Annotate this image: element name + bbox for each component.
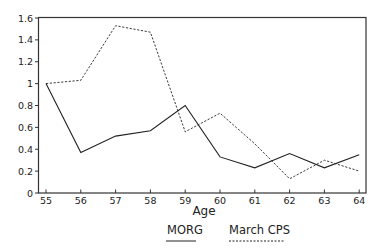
x-tick-label: 60	[214, 195, 226, 206]
legend-label-morg: MORG	[167, 223, 203, 237]
y-axis: 00.20.40.60.811.21.41.6	[18, 13, 39, 199]
y-tick-label: 1	[27, 78, 33, 89]
series-line-morg	[46, 84, 359, 168]
x-tick-label: 55	[40, 195, 52, 206]
series-line-march-cps	[46, 26, 359, 179]
x-tick-label: 56	[75, 195, 87, 206]
x-tick-label: 57	[110, 195, 122, 206]
y-tick-label: 1.6	[18, 13, 33, 24]
y-tick-label: 1.4	[18, 34, 33, 45]
x-tick-label: 59	[179, 195, 191, 206]
legend: MORG March CPS	[166, 223, 290, 241]
line-chart: 00.20.40.60.811.21.41.6 5556575859606162…	[0, 0, 385, 250]
y-tick-label: 0.4	[18, 144, 33, 155]
y-tick-label: 0.2	[18, 166, 33, 177]
x-tick-label: 61	[249, 195, 261, 206]
x-axis-title: Age	[192, 204, 215, 218]
legend-item-morg: MORG	[166, 223, 203, 241]
legend-label-march-cps: March CPS	[229, 223, 290, 237]
x-tick-label: 62	[284, 195, 296, 206]
series-layer	[46, 26, 359, 179]
plot-frame	[39, 18, 367, 194]
x-tick-label: 63	[318, 195, 330, 206]
y-tick-label: 0	[27, 188, 33, 199]
y-tick-label: 1.2	[18, 56, 33, 67]
x-tick-label: 58	[144, 195, 156, 206]
x-tick-label: 64	[353, 195, 365, 206]
legend-item-march-cps: March CPS	[229, 223, 290, 241]
y-tick-label: 0.8	[18, 100, 33, 111]
plot-border	[39, 18, 367, 194]
y-tick-label: 0.6	[18, 122, 33, 133]
